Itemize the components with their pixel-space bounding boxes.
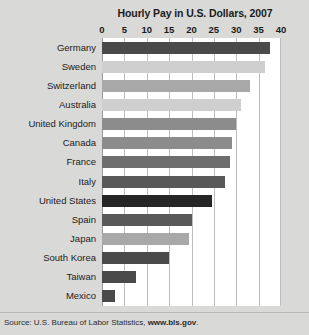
source-prefix-text: Source: U.S. Bureau of Labor Statistics, xyxy=(4,318,148,327)
category-label-switzerland: Switzerland xyxy=(47,81,96,91)
bar-spain xyxy=(102,214,192,226)
x-axis-tick-labels: 0510152025303540 xyxy=(102,24,281,36)
x-tick-label-15: 15 xyxy=(164,24,175,35)
bar-italy xyxy=(102,176,225,188)
category-label-japan: Japan xyxy=(70,234,96,244)
category-label-south-korea: South Korea xyxy=(43,253,96,263)
x-tick-label-20: 20 xyxy=(186,24,197,35)
bar-france xyxy=(102,156,230,168)
x-tick-label-30: 30 xyxy=(231,24,242,35)
bar-germany xyxy=(102,42,270,54)
bar-united-kingdom xyxy=(102,118,236,130)
bar-taiwan xyxy=(102,271,136,283)
chart-title: Hourly Pay in U.S. Dollars, 2007 xyxy=(102,7,288,19)
category-label-mexico: Mexico xyxy=(66,291,96,301)
category-label-canada: Canada xyxy=(63,138,96,148)
bar-switzerland xyxy=(102,80,250,92)
y-axis-category-labels: GermanySwedenSwitzerlandAustraliaUnited … xyxy=(0,38,99,306)
source-note: Source: U.S. Bureau of Labor Statistics,… xyxy=(4,318,198,327)
bar-chart-figure: Hourly Pay in U.S. Dollars, 2007 0510152… xyxy=(0,0,309,335)
x-tick-label-25: 25 xyxy=(209,24,220,35)
x-tick-label-35: 35 xyxy=(253,24,264,35)
source-divider xyxy=(0,312,309,313)
x-tick-label-10: 10 xyxy=(141,24,152,35)
category-label-australia: Australia xyxy=(59,100,96,110)
category-label-united-states: United States xyxy=(39,196,96,206)
x-tick-label-5: 5 xyxy=(122,24,127,35)
category-label-germany: Germany xyxy=(57,43,96,53)
category-label-italy: Italy xyxy=(79,177,96,187)
category-label-spain: Spain xyxy=(72,215,96,225)
category-label-taiwan: Taiwan xyxy=(66,272,96,282)
source-suffix-text: . xyxy=(196,318,198,327)
bar-canada xyxy=(102,137,232,149)
category-label-france: France xyxy=(66,157,96,167)
bar-united-states xyxy=(102,195,212,207)
bars-container xyxy=(102,38,281,306)
source-website-link[interactable]: www.bls.gov xyxy=(148,318,197,327)
bar-mexico xyxy=(102,290,115,302)
x-tick-label-40: 40 xyxy=(276,24,287,35)
category-label-sweden: Sweden xyxy=(62,62,96,72)
x-tick-label-0: 0 xyxy=(99,24,104,35)
category-label-united-kingdom: United Kingdom xyxy=(28,119,96,129)
bar-australia xyxy=(102,99,241,111)
bar-sweden xyxy=(102,61,265,73)
bar-japan xyxy=(102,233,189,245)
bar-south-korea xyxy=(102,252,169,264)
plot-area xyxy=(102,38,281,306)
